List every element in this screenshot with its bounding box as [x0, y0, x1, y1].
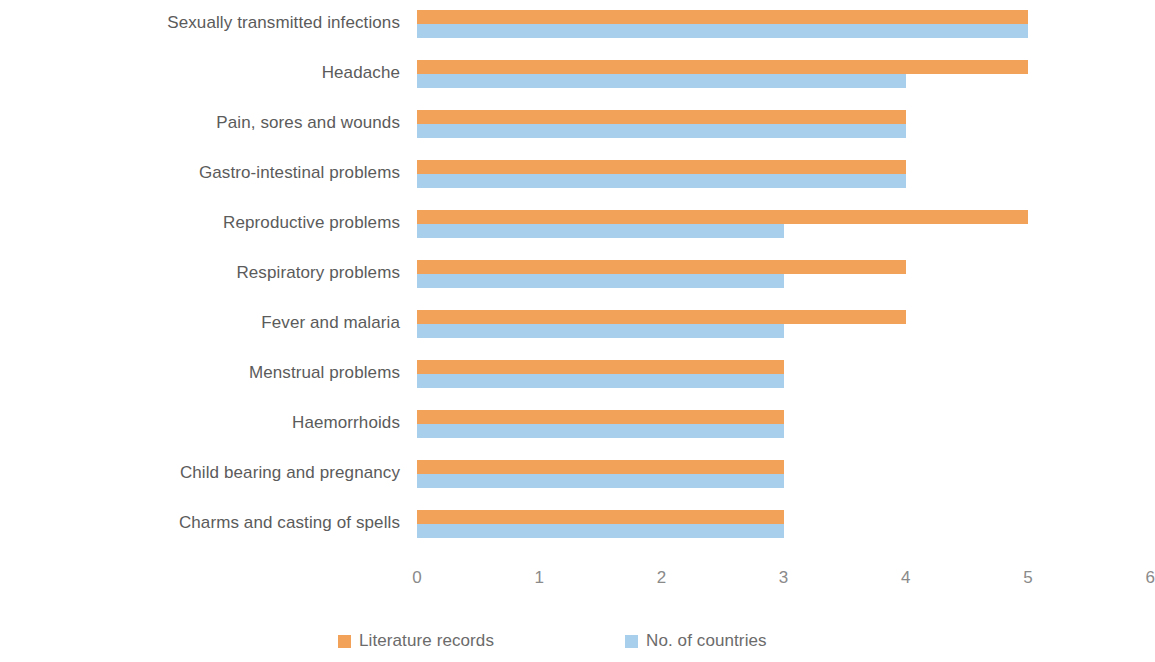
- bar-group: [417, 310, 906, 338]
- bar-group: [417, 260, 906, 288]
- bar-group: [417, 510, 784, 538]
- bar-literature-records: [417, 310, 906, 324]
- chart-category-row: Fever and malaria: [0, 308, 1155, 358]
- bar-literature-records: [417, 110, 906, 124]
- category-label: Menstrual problems: [0, 358, 400, 388]
- category-label: Headache: [0, 58, 400, 88]
- plot-area: Sexually transmitted infectionsHeadacheP…: [0, 0, 1155, 560]
- bar-no-of-countries: [417, 124, 906, 138]
- category-label: Fever and malaria: [0, 308, 400, 338]
- bar-group: [417, 110, 906, 138]
- x-axis-tick-label: 1: [519, 568, 559, 588]
- chart-category-row: Sexually transmitted infections: [0, 8, 1155, 58]
- bar-group: [417, 410, 784, 438]
- bar-group: [417, 160, 906, 188]
- bar-literature-records: [417, 210, 1028, 224]
- x-axis-tick-label: 4: [886, 568, 926, 588]
- bar-chart: Sexually transmitted infectionsHeadacheP…: [0, 0, 1155, 662]
- category-label: Gastro-intestinal problems: [0, 158, 400, 188]
- x-axis-tick-label: 3: [764, 568, 804, 588]
- bar-literature-records: [417, 260, 906, 274]
- chart-category-row: Respiratory problems: [0, 258, 1155, 308]
- bar-no-of-countries: [417, 324, 784, 338]
- bar-no-of-countries: [417, 424, 784, 438]
- legend-swatch-icon: [338, 635, 351, 648]
- chart-category-row: Haemorrhoids: [0, 408, 1155, 458]
- category-label: Respiratory problems: [0, 258, 400, 288]
- x-axis-tick-label: 2: [641, 568, 681, 588]
- bar-literature-records: [417, 160, 906, 174]
- bar-no-of-countries: [417, 274, 784, 288]
- legend-swatch-icon: [625, 635, 638, 648]
- bar-no-of-countries: [417, 174, 906, 188]
- bar-group: [417, 60, 1028, 88]
- bar-no-of-countries: [417, 24, 1028, 38]
- bar-group: [417, 210, 1028, 238]
- chart-category-row: Child bearing and pregnancy: [0, 458, 1155, 508]
- bar-literature-records: [417, 410, 784, 424]
- category-label: Haemorrhoids: [0, 408, 400, 438]
- bar-no-of-countries: [417, 374, 784, 388]
- chart-category-row: Menstrual problems: [0, 358, 1155, 408]
- bar-group: [417, 460, 784, 488]
- x-axis-tick-label: 0: [397, 568, 437, 588]
- chart-legend: Literature recordsNo. of countries: [0, 620, 1155, 662]
- category-label: Child bearing and pregnancy: [0, 458, 400, 488]
- chart-category-row: Pain, sores and wounds: [0, 108, 1155, 158]
- bar-group: [417, 360, 784, 388]
- category-label: Sexually transmitted infections: [0, 8, 400, 38]
- x-axis: 0123456: [0, 560, 1155, 605]
- category-label: Pain, sores and wounds: [0, 108, 400, 138]
- chart-category-row: Headache: [0, 58, 1155, 108]
- legend-item[interactable]: Literature records: [338, 630, 494, 652]
- bar-no-of-countries: [417, 74, 906, 88]
- legend-label: No. of countries: [646, 631, 767, 651]
- bar-literature-records: [417, 460, 784, 474]
- bar-group: [417, 10, 1028, 38]
- category-label: Reproductive problems: [0, 208, 400, 238]
- bar-literature-records: [417, 60, 1028, 74]
- chart-category-row: Charms and casting of spells: [0, 508, 1155, 558]
- category-label: Charms and casting of spells: [0, 508, 400, 538]
- legend-item[interactable]: No. of countries: [625, 630, 767, 652]
- chart-category-row: Gastro-intestinal problems: [0, 158, 1155, 208]
- bar-literature-records: [417, 360, 784, 374]
- bar-no-of-countries: [417, 474, 784, 488]
- bar-literature-records: [417, 510, 784, 524]
- x-axis-tick-label: 5: [1008, 568, 1048, 588]
- bar-literature-records: [417, 10, 1028, 24]
- x-axis-tick-label: 6: [1130, 568, 1155, 588]
- chart-category-row: Reproductive problems: [0, 208, 1155, 258]
- bar-no-of-countries: [417, 224, 784, 238]
- legend-label: Literature records: [359, 631, 494, 651]
- bar-no-of-countries: [417, 524, 784, 538]
